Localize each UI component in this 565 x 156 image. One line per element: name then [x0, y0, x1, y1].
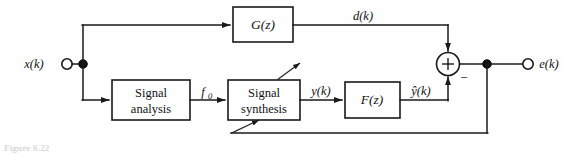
- label-signal-synthesis-line1: Signal: [248, 86, 280, 100]
- label-output-ek: e(k): [539, 57, 558, 71]
- label-signal-synthesis-line2: synthesis: [241, 102, 287, 116]
- label-signal-analysis-line2: analysis: [131, 102, 171, 116]
- figure-caption: Figure 6.22: [4, 143, 50, 153]
- label-block-gz: G(z): [251, 17, 275, 32]
- label-block-fz: F(z): [360, 92, 384, 107]
- label-signal-analysis-line1: Signal: [135, 86, 167, 100]
- label-input-xk: x(k): [23, 57, 43, 71]
- input-terminal-circle: [62, 59, 72, 69]
- label-f0: f: [201, 85, 206, 99]
- wire-feedback-diagonal-to-synthesis: [231, 120, 259, 133]
- diagram-canvas: x(k) G(z) d(k) Signal analysis f 0 Signa…: [0, 0, 565, 156]
- label-minus-sign: −: [460, 70, 467, 85]
- label-dk: d(k): [353, 9, 373, 23]
- output-terminal-circle: [523, 59, 533, 69]
- block-diagram-figure: x(k) G(z) d(k) Signal analysis f 0 Signa…: [0, 0, 565, 156]
- label-yhat-k: ŷ(k): [409, 84, 430, 98]
- adaptation-arrow-out: [277, 63, 300, 80]
- summing-junction: [437, 53, 460, 76]
- label-yk: y(k): [309, 84, 330, 98]
